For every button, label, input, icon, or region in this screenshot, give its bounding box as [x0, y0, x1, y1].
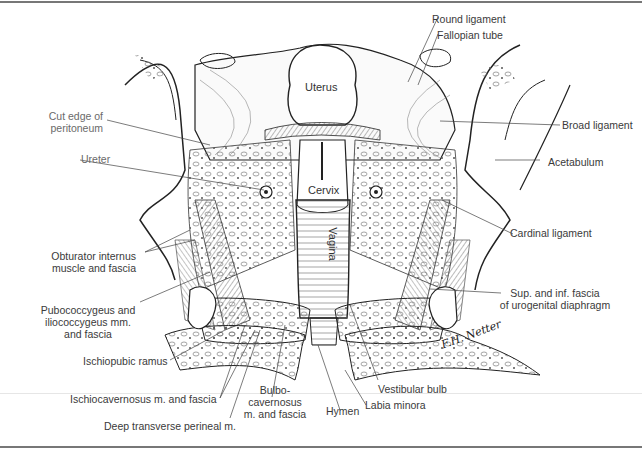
- label-hymen: Hymen: [326, 405, 359, 417]
- label-sup-inf-fascia: Sup. and inf. fascia of urogenital diaph…: [492, 287, 618, 311]
- label-ischiocavernosus: Ischiocavernosus m. and fascia: [70, 393, 217, 405]
- label-vagina: Vagina: [327, 227, 339, 260]
- label-bulbocavernosus: Bulbo- cavernosus m. and fascia: [243, 384, 307, 420]
- label-pubococcygeus: Pubococcygeus and iliococcygeus mm. and …: [38, 304, 138, 340]
- label-obturator-internus: Obturator internus muscle and fascia: [30, 250, 136, 274]
- label-vestibular-bulb: Vestibular bulb: [378, 383, 447, 395]
- label-cut-edge-peritoneum: Cut edge of peritoneum: [45, 110, 103, 134]
- label-broad-ligament: Broad ligament: [562, 119, 633, 131]
- label-uterus: Uterus: [305, 81, 337, 93]
- label-ureter: Ureter: [81, 153, 110, 165]
- label-ischiopubic-ramus: Ischiopubic ramus: [83, 355, 168, 367]
- label-acetabulum: Acetabulum: [548, 156, 603, 168]
- label-round-ligament: Round ligament: [432, 13, 506, 25]
- label-labia-minora: Labia minora: [365, 399, 426, 411]
- label-deep-transverse-perineal: Deep transverse perineal m.: [104, 420, 236, 432]
- label-cervix: Cervix: [308, 184, 339, 196]
- label-cardinal-ligament: Cardinal ligament: [510, 227, 592, 239]
- label-fallopian-tube: Fallopian tube: [437, 29, 503, 41]
